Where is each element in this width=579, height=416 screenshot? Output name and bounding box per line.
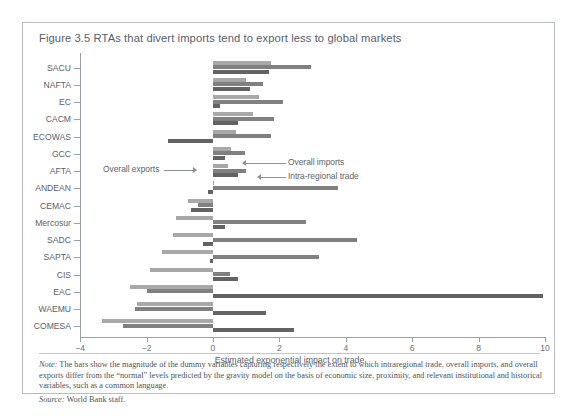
- note-text: The bars show the magnitude of the dummy…: [39, 360, 542, 390]
- bar-eac-overall-imports: [147, 289, 213, 293]
- bar-ecowas-overall-imports: [213, 134, 271, 138]
- x-axis-tick-label: 8: [476, 343, 481, 353]
- y-axis-tick: [74, 309, 80, 310]
- y-axis-label-mercosur: Mercosur: [23, 218, 71, 228]
- chart-plot-area: SACUNAFTAECCACMECOWASGCCAFTAANDEANCEMACM…: [23, 53, 556, 343]
- bar-cis-intra-regional-trade: [150, 268, 213, 272]
- y-axis-label-afta: AFTA: [23, 166, 71, 176]
- y-axis-label-ec: EC: [23, 97, 71, 107]
- bar-sapta-overall-exports: [210, 259, 213, 263]
- x-axis-tick-label: −4: [75, 343, 85, 353]
- bar-nafta-overall-exports: [213, 87, 250, 91]
- bar-andean-intra-regional-trade: [213, 181, 214, 185]
- x-axis-tick: [346, 337, 347, 342]
- y-axis-label-gcc: GCC: [23, 149, 71, 159]
- bar-cemac-overall-exports: [191, 208, 213, 212]
- bar-nafta-intra-regional-trade: [213, 78, 246, 82]
- y-axis-tick: [74, 85, 80, 86]
- y-axis-tick: [74, 68, 80, 69]
- bar-cemac-overall-imports: [198, 203, 213, 207]
- y-axis-label-cemac: CEMAC: [23, 201, 71, 211]
- y-axis-tick: [74, 119, 80, 120]
- annotation-intra-regional-trade: Intra-regional trade: [288, 171, 359, 181]
- bar-gcc-intra-regional-trade: [213, 147, 231, 151]
- y-axis-label-sapta: SAPTA: [23, 252, 71, 262]
- figure-source: Source: World Bank staff.: [39, 395, 542, 404]
- y-axis-label-ecowas: ECOWAS: [23, 132, 71, 142]
- bar-comesa-intra-regional-trade: [102, 319, 213, 323]
- bar-cacm-intra-regional-trade: [213, 112, 253, 116]
- source-text: World Bank staff.: [65, 395, 126, 404]
- bar-ecowas-intra-regional-trade: [213, 130, 236, 134]
- figure-note: Note: The bars show the magnitude of the…: [39, 360, 542, 392]
- annotation-arrow-imports: [242, 160, 246, 166]
- annotation-overall-exports: Overall exports: [103, 164, 159, 174]
- bar-afta-overall-exports: [213, 173, 238, 177]
- bar-ec-intra-regional-trade: [213, 95, 259, 99]
- bar-eac-intra-regional-trade: [130, 285, 213, 289]
- bar-waemu-overall-imports: [135, 307, 213, 311]
- bar-sacu-intra-regional-trade: [213, 61, 271, 65]
- x-axis-tick-label: 4: [343, 343, 348, 353]
- annotation-arrow-exports: [193, 167, 197, 173]
- y-axis-label-sacu: SACU: [23, 63, 71, 73]
- bar-mercosur-intra-regional-trade: [176, 216, 213, 220]
- y-axis-label-cacm: CACM: [23, 114, 71, 124]
- bar-sacu-overall-exports: [213, 70, 269, 74]
- y-axis-tick: [74, 292, 80, 293]
- x-axis-tick: [545, 337, 546, 342]
- bar-cacm-overall-imports: [213, 117, 274, 121]
- bar-gcc-overall-exports: [213, 156, 225, 160]
- bar-afta-intra-regional-trade: [213, 164, 228, 168]
- y-axis-tick: [74, 102, 80, 103]
- bar-waemu-intra-regional-trade: [137, 302, 213, 306]
- x-axis-tick-label: 10: [540, 343, 550, 353]
- bar-nafta-overall-imports: [213, 82, 263, 86]
- bar-cemac-intra-regional-trade: [188, 199, 213, 203]
- bar-andean-overall-imports: [213, 186, 338, 190]
- bar-gcc-overall-imports: [213, 151, 245, 155]
- y-axis-label-cis: CIS: [23, 270, 71, 280]
- y-axis-label-eac: EAC: [23, 287, 71, 297]
- x-axis-tick: [412, 337, 413, 342]
- x-axis-line: [80, 337, 545, 338]
- y-axis-label-sadc: SADC: [23, 235, 71, 245]
- bar-comesa-overall-exports: [213, 328, 294, 332]
- bar-sapta-intra-regional-trade: [162, 250, 213, 254]
- x-axis-tick-label: 2: [277, 343, 282, 353]
- bar-ecowas-overall-exports: [168, 139, 213, 143]
- bar-mercosur-overall-exports: [213, 225, 225, 229]
- x-axis-tick: [213, 337, 214, 342]
- y-axis-label-comesa: COMESA: [23, 321, 71, 331]
- x-axis-tick: [279, 337, 280, 342]
- y-axis-label-andean: ANDEAN: [23, 183, 71, 193]
- y-axis-tick: [74, 326, 80, 327]
- bar-sapta-overall-imports: [213, 255, 319, 259]
- bar-mercosur-overall-imports: [213, 220, 306, 224]
- bar-ec-overall-imports: [213, 100, 283, 104]
- y-axis-tick: [74, 275, 80, 276]
- bar-cis-overall-exports: [213, 277, 238, 281]
- source-label: Source:: [39, 395, 65, 404]
- y-axis-tick: [74, 154, 80, 155]
- y-axis-line: [80, 53, 81, 337]
- bar-sadc-intra-regional-trade: [173, 233, 213, 237]
- y-axis-tick: [74, 171, 80, 172]
- y-axis-label-waemu: WAEMU: [23, 304, 71, 314]
- x-axis-tick: [80, 337, 81, 342]
- annotation-leader-intra: [261, 177, 286, 178]
- annotation-leader-exports: [164, 170, 194, 171]
- x-axis-tick-label: 6: [410, 343, 415, 353]
- bar-ec-overall-exports: [213, 104, 220, 108]
- y-axis-tick: [74, 137, 80, 138]
- bar-cis-overall-imports: [213, 272, 230, 276]
- x-axis-tick: [479, 337, 480, 342]
- x-axis-tick-label: 0: [211, 343, 216, 353]
- y-axis-tick: [74, 240, 80, 241]
- figure-title: Figure 3.5 RTAs that divert imports tend…: [39, 32, 402, 44]
- y-axis-tick: [74, 206, 80, 207]
- annotation-overall-imports: Overall imports: [288, 157, 344, 167]
- bar-eac-overall-exports: [213, 294, 543, 298]
- bar-sadc-overall-imports: [213, 238, 357, 242]
- figure-panel: Figure 3.5 RTAs that divert imports tend…: [22, 22, 555, 394]
